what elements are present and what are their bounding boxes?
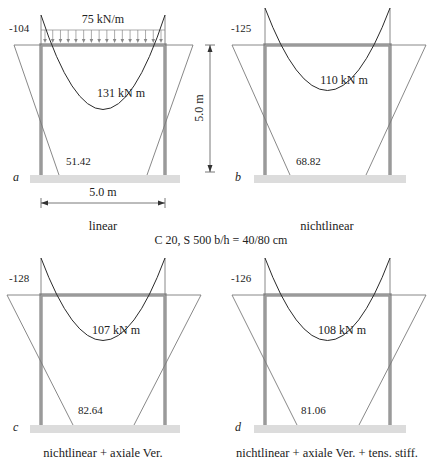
caption-d: nichtlinear + axiale Ver. + tens. stiff. [236,446,418,460]
corner-moment-b: -125 [231,22,252,34]
caption-b: nichtlinear [300,219,354,233]
base-moment-c: 82.64 [78,404,103,416]
ground-support [254,175,406,183]
column-moment-right [147,45,193,175]
ground-support [30,425,180,433]
portal-frame [265,45,390,175]
panel-c [7,258,201,433]
caption-a: linear [89,219,118,233]
ground-support [254,425,406,433]
base-moment-d: 81.06 [301,404,326,416]
span-moment-a: 131 kN m [97,86,146,100]
span-moment-b: 110 kN m [320,73,368,87]
panel-letter-a: a [13,170,19,184]
column-moment-left [14,45,59,175]
span-dimension-label: 5.0 m [89,185,117,199]
panel-b [232,8,426,183]
ground-support [30,175,180,183]
caption-c: nichtlinear + axiale Ver. [43,446,162,460]
base-moment-a: 51.42 [66,155,91,167]
frame-moment-diagrams: 75 kN/m 5.0 m 5.0 m C 20, S 500 b/h = 40… [0,0,437,467]
panel-letter-c: c [13,420,19,434]
portal-frame [265,295,390,425]
column-moment-right [134,295,201,425]
height-dimension: 5.0 m [192,45,215,172]
panel-d [232,258,426,433]
height-dimension-label: 5.0 m [192,94,206,122]
corner-moment-d: -126 [231,272,252,284]
panel-letter-d: d [235,420,242,434]
corner-moment-a: -104 [9,22,30,34]
column-moment-left [232,45,290,175]
portal-frame [41,295,165,425]
corner-moment-c: -128 [9,272,30,284]
column-moment-right [366,45,426,175]
base-moment-b: 68.82 [296,155,321,167]
span-moment-c: 107 kN m [92,323,141,337]
span-moment-d: 108 kN m [318,323,367,337]
column-moment-right [359,295,426,425]
section-label: C 20, S 500 b/h = 40/80 cm [155,233,288,247]
span-dimension: 5.0 m [41,185,165,208]
load-label: 75 kN/m [82,12,125,26]
panel-letter-b: b [235,170,241,184]
